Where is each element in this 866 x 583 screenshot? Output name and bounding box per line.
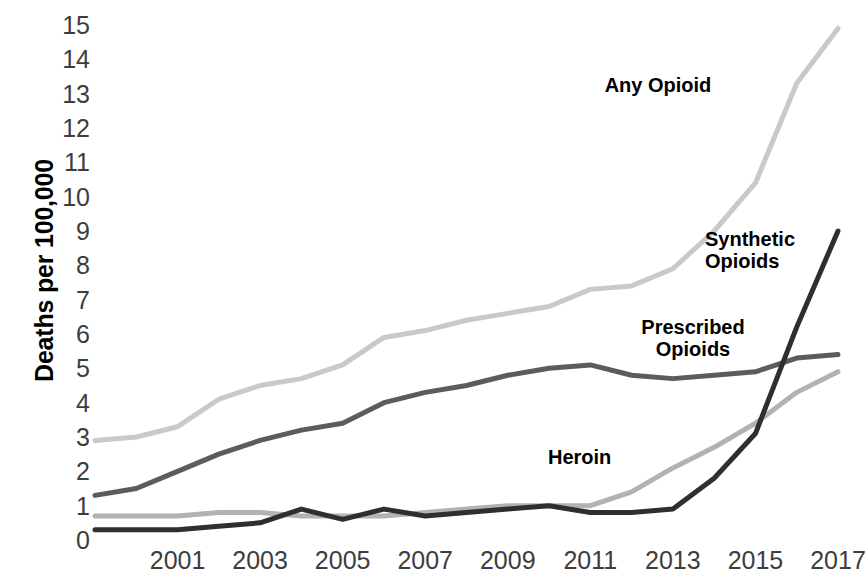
series-label-prescribed-opioids: Prescribed Opioids	[641, 316, 744, 361]
x-axis-tick-2007: 2007	[397, 548, 453, 573]
x-axis-tick-2009: 2009	[480, 548, 536, 573]
series-label-synthetic-opioids: Synthetic Opioids	[705, 228, 795, 273]
x-axis-tick-2017: 2017	[810, 548, 866, 573]
series-line-synthetic-opioids	[95, 231, 838, 530]
x-axis-tick-2015: 2015	[728, 548, 784, 573]
series-line-prescribed-opioids	[95, 355, 838, 496]
x-axis-tick-2003: 2003	[232, 548, 288, 573]
x-axis-tick-2013: 2013	[645, 548, 701, 573]
x-axis-tick-2011: 2011	[563, 548, 617, 573]
series-label-heroin: Heroin	[548, 446, 611, 468]
x-axis-tick-2005: 2005	[315, 548, 371, 573]
x-axis-tick-2001: 2001	[150, 548, 206, 573]
series-line-heroin	[95, 372, 838, 516]
x-axis-tick-labels: 200120032005200720092011201320152017	[0, 548, 844, 583]
series-label-any-opioid: Any Opioid	[605, 74, 712, 96]
